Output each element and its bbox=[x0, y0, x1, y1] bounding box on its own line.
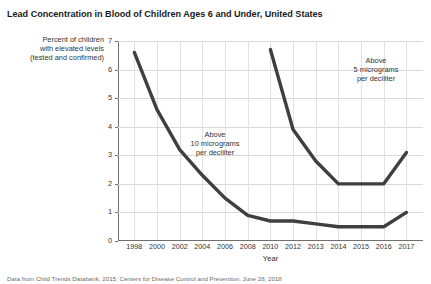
annotation-above-5-line-3: per deciliter bbox=[330, 75, 422, 84]
page-title: Lead Concentration in Blood of Children … bbox=[7, 9, 427, 20]
y-tick-label-2: 2 bbox=[94, 180, 112, 188]
x-tick-label-2012: 2012 bbox=[281, 243, 305, 251]
y-tick-label-1: 1 bbox=[94, 208, 112, 216]
x-tick-label-2016: 2016 bbox=[372, 243, 396, 251]
y-tick-label-0: 0 bbox=[94, 237, 112, 245]
top-margin-band bbox=[0, 0, 431, 6]
y-axis-title: Percent of children with elevated levels… bbox=[8, 36, 104, 63]
annotation-above-10: Above 10 micrograms per deciliter bbox=[163, 131, 267, 158]
y-tick-label-5: 5 bbox=[94, 94, 112, 102]
x-tick-label-2004: 2004 bbox=[190, 243, 214, 251]
y-tick-label-3: 3 bbox=[94, 151, 112, 159]
x-tick-label-2000: 2000 bbox=[145, 243, 169, 251]
x-tick-label-2006: 2006 bbox=[213, 243, 237, 251]
y-tick-mark-0 bbox=[115, 241, 118, 242]
x-tick-label-2013: 2013 bbox=[304, 243, 328, 251]
x-axis-title: Year bbox=[118, 254, 423, 263]
x-tick-label-2015: 2015 bbox=[349, 243, 373, 251]
x-tick-label-2017: 2017 bbox=[394, 243, 418, 251]
y-tick-label-7: 7 bbox=[94, 37, 112, 45]
annotation-above-10-line-3: per deciliter bbox=[163, 149, 267, 158]
x-tick-label-1998: 1998 bbox=[122, 243, 146, 251]
x-tick-label-2010: 2010 bbox=[258, 243, 282, 251]
source-footnote: Data from Child Trends Databank, 2015; C… bbox=[7, 275, 431, 283]
y-tick-label-4: 4 bbox=[94, 123, 112, 131]
y-tick-label-6: 6 bbox=[94, 66, 112, 74]
y-axis-title-line-3: (tested and confirmed) bbox=[8, 54, 104, 63]
x-tick-label-2008: 2008 bbox=[236, 243, 260, 251]
x-tick-label-2002: 2002 bbox=[168, 243, 192, 251]
x-tick-label-2014: 2014 bbox=[326, 243, 350, 251]
annotation-above-5: Above 5 micrograms per deciliter bbox=[330, 57, 422, 84]
